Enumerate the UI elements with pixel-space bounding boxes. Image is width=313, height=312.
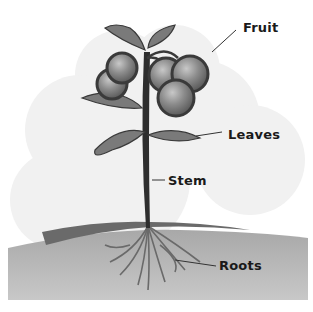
plant-diagram: Fruit Leaves Stem Roots xyxy=(0,0,313,312)
plant-illustration xyxy=(0,0,313,312)
label-roots: Roots xyxy=(219,258,262,273)
label-leaves: Leaves xyxy=(228,127,280,142)
label-stem: Stem xyxy=(168,173,207,188)
fruit-pointer xyxy=(212,30,236,52)
label-fruit: Fruit xyxy=(243,20,278,35)
